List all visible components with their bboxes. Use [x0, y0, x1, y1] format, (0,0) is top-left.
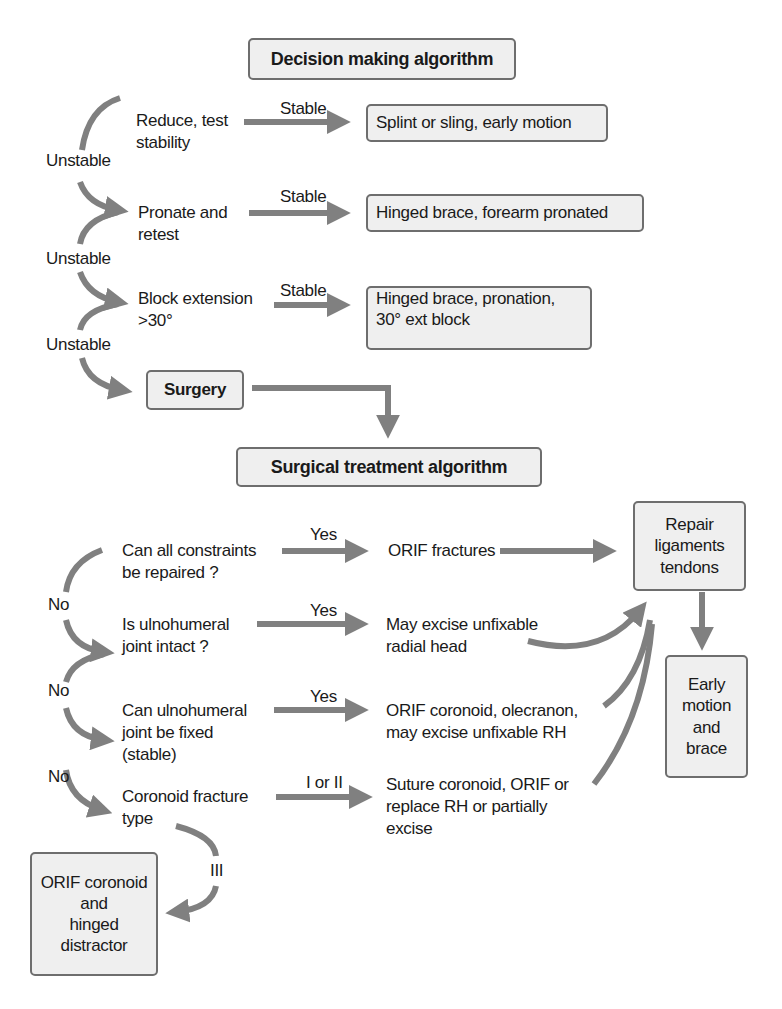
curve-no-1a	[66, 550, 102, 592]
step-block-line1: Block extension	[138, 288, 253, 310]
question-coronoid-line1: Coronoid fracture	[122, 786, 248, 808]
curve-unstable-1a	[82, 98, 120, 150]
step-pronate-line1: Pronate and	[138, 202, 227, 224]
step-block-line2: >30°	[138, 310, 253, 332]
curve-radial-head	[528, 610, 640, 646]
result-hinged-pronation-box: Hinged brace, pronation, 30° ext block	[366, 286, 592, 350]
arrow-surgery-to-title	[252, 388, 388, 428]
question-ulnohumeral-fixed: Can ulnohumeral joint be fixed (stable)	[122, 700, 247, 765]
curve-iii-b	[176, 886, 216, 912]
result-suture-line1: Suture coronoid, ORIF or	[386, 774, 569, 796]
early-motion-box: Early motion and brace	[665, 655, 748, 778]
step-block-label: Block extension >30°	[138, 288, 253, 332]
early-line3: and	[693, 717, 720, 738]
type3-line4: distractor	[61, 935, 128, 956]
type3-line2: and	[80, 893, 107, 914]
curve-no-2b	[66, 708, 104, 740]
edge-stable-2: Stable	[280, 186, 326, 208]
question-constraints-line2: be repaired ?	[122, 562, 256, 584]
question-fixed-line2: joint be fixed	[122, 722, 247, 744]
unstable-label-1: Unstable	[46, 150, 111, 172]
edge-i-or-ii: I or II	[306, 772, 343, 794]
no-label-2: No	[48, 680, 69, 702]
result-hinged-pronation-line2: 30° ext block	[376, 309, 470, 330]
no-label-1: No	[48, 594, 69, 616]
step-reduce-line1: Reduce, test	[136, 110, 228, 132]
type3-line1: ORIF coronoid	[41, 872, 148, 893]
result-orif-coronoid-line2: may excise unfixable RH	[386, 722, 578, 744]
question-intact-line2: joint intact ?	[122, 636, 229, 658]
result-radial-head-line2: radial head	[386, 636, 538, 658]
edge-stable-1: Stable	[280, 98, 326, 120]
edge-stable-3: Stable	[280, 280, 326, 302]
result-hinged-pronation-line1: Hinged brace, pronation,	[376, 288, 555, 309]
early-line2: motion	[682, 695, 731, 716]
type3-label: III	[210, 860, 223, 882]
curve-no-3	[66, 770, 102, 810]
type3-line3: hinged	[69, 914, 118, 935]
curve-unstable-1b	[80, 182, 118, 210]
question-constraints-line1: Can all constraints	[122, 540, 256, 562]
result-orif-coronoid: ORIF coronoid, olecranon, may excise unf…	[386, 700, 578, 744]
early-line4: brace	[686, 738, 727, 759]
step-pronate-label: Pronate and retest	[138, 202, 227, 246]
type3-result-box: ORIF coronoid and hinged distractor	[30, 852, 158, 976]
step-reduce-line2: stability	[136, 132, 228, 154]
surgery-box: Surgery	[146, 370, 244, 410]
result-suture-coronoid: Suture coronoid, ORIF or replace RH or p…	[386, 774, 569, 839]
result-radial-head-line1: May excise unfixable	[386, 614, 538, 636]
question-ulnohumeral-intact: Is ulnohumeral joint intact ?	[122, 614, 229, 658]
unstable-label-2: Unstable	[46, 248, 111, 270]
repair-line1: Repair	[665, 514, 713, 535]
question-coronoid-line2: type	[122, 808, 248, 830]
step-reduce-label: Reduce, test stability	[136, 110, 228, 154]
edge-yes-2: Yes	[310, 600, 337, 622]
surgical-title-box: Surgical treatment algorithm	[236, 447, 542, 487]
result-splint-box: Splint or sling, early motion	[366, 104, 608, 142]
step-pronate-line2: retest	[138, 224, 227, 246]
edge-yes-1: Yes	[310, 524, 337, 546]
question-fixed-line3: (stable)	[122, 744, 247, 766]
repair-line2: ligaments	[654, 535, 724, 556]
result-orif-coronoid-line1: ORIF coronoid, olecranon,	[386, 700, 578, 722]
result-hinged-brace-box: Hinged brace, forearm pronated	[366, 194, 644, 232]
curve-unstable-2b	[80, 272, 118, 302]
result-suture-line2: replace RH or partially	[386, 796, 569, 818]
unstable-label-3: Unstable	[46, 334, 111, 356]
repair-line3: tendons	[660, 557, 718, 578]
result-orif-fractures: ORIF fractures	[388, 540, 495, 562]
result-radial-head: May excise unfixable radial head	[386, 614, 538, 658]
curve-unstable-3b	[82, 358, 122, 390]
question-intact-line1: Is ulnohumeral	[122, 614, 229, 636]
result-suture-line3: excise	[386, 818, 569, 840]
question-constraints: Can all constraints be repaired ?	[122, 540, 256, 584]
repair-ligaments-box: Repair ligaments tendons	[633, 501, 746, 591]
no-label-3: No	[48, 766, 69, 788]
question-fixed-line1: Can ulnohumeral	[122, 700, 247, 722]
early-line1: Early	[688, 674, 725, 695]
curve-no-1b	[66, 620, 104, 652]
question-coronoid-type: Coronoid fracture type	[122, 786, 248, 830]
decision-title-box: Decision making algorithm	[248, 38, 516, 80]
curve-iii-a	[176, 826, 216, 856]
curve-unstable-3a	[80, 304, 118, 330]
edge-yes-3: Yes	[310, 686, 337, 708]
curve-no-2a	[66, 654, 104, 682]
curve-unstable-2a	[80, 212, 118, 244]
